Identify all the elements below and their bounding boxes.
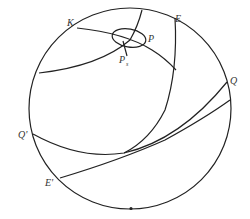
pole-circle — [111, 26, 148, 50]
label-K: K — [66, 17, 75, 28]
label-Ps: P — [118, 54, 125, 65]
label-Ps-sub: s — [126, 61, 129, 67]
nadir-dot — [129, 207, 132, 210]
label-Q-prime: Q' — [18, 129, 28, 140]
equator-arc — [33, 82, 227, 154]
label-P: P — [147, 33, 154, 44]
label-E-prime: E' — [44, 177, 54, 188]
label-Q: Q — [230, 75, 238, 86]
sphere-outline — [29, 8, 231, 209]
arc-E-prime — [60, 100, 230, 178]
label-E: E — [174, 13, 181, 24]
celestial-sphere-diagram: K E P P s Q Q' E' — [0, 0, 250, 219]
